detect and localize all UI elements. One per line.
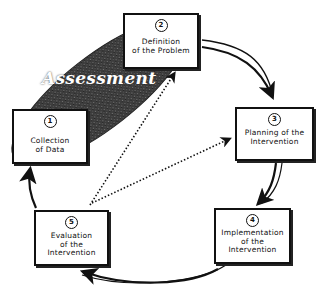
arrow-3-to-4 xyxy=(259,163,282,203)
step-number-badge: 5 xyxy=(65,216,78,229)
step-number-badge: 3 xyxy=(268,113,281,126)
step-box-definition-of-problem: 2 Definition of the Problem xyxy=(123,13,199,69)
step-label: Collection of Data xyxy=(30,137,69,154)
step-box-planning-intervention: 3 Planning of the Intervention xyxy=(235,107,314,161)
arrow-5-to-1 xyxy=(29,170,36,208)
assessment-label: Assessment xyxy=(42,68,156,88)
step-box-implementation-intervention: 4 Implementation of the Intervention xyxy=(214,208,291,264)
step-label: Definition of the Problem xyxy=(132,38,190,55)
arrow-4-to-5 xyxy=(82,265,226,283)
assessment-cycle-diagram: Assessment 1 Collection of Data 2 Defini… xyxy=(0,0,316,292)
step-label: Planning of the Intervention xyxy=(245,129,305,146)
step-number-badge: 1 xyxy=(44,115,57,128)
step-box-evaluation-intervention: 5 Evaluation of the Intervention xyxy=(34,210,109,266)
step-box-collection-of-data: 1 Collection of Data xyxy=(12,109,88,164)
step-label: Implementation of the Intervention xyxy=(221,229,283,255)
dotted-arrow-5-to-3 xyxy=(92,139,229,203)
step-number-badge: 4 xyxy=(246,214,259,227)
step-label: Evaluation of the Intervention xyxy=(47,232,95,258)
arrow-2-to-3 xyxy=(202,40,273,96)
step-number-badge: 2 xyxy=(155,19,168,32)
